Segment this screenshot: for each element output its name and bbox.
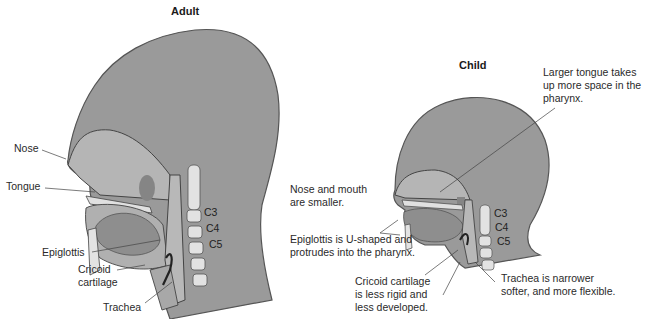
- adult-cricoid-label-line2: cartilage: [78, 276, 118, 289]
- child-head: [394, 98, 549, 270]
- adult-title: Adult: [171, 5, 199, 17]
- adult-cricoid-label-line1: Cricoid: [78, 263, 111, 276]
- child-vertebra-c4: C4: [495, 221, 508, 233]
- child-tongue-label-line3: pharynx.: [543, 92, 583, 105]
- child-epiglottis-label-line2: protrudes into the pharynx.: [290, 246, 415, 259]
- child-title: Child: [459, 59, 487, 71]
- adult-vertebra-c3: C3: [204, 206, 217, 218]
- child-cricoid-label-line2: is less rigid and: [355, 288, 427, 301]
- child-trachea-label-line2: softer, and more flexible.: [501, 285, 615, 298]
- adult-vertebra-c5: C5: [209, 238, 222, 250]
- child-tongue-label-line1: Larger tongue takes: [543, 66, 636, 79]
- adult-trachea-label: Trachea: [103, 301, 141, 314]
- child-trachea-label-line1: Trachea is narrower: [501, 272, 594, 285]
- child-nose-label-line2: are smaller.: [290, 196, 344, 209]
- child-nose-label-line1: Nose and mouth: [290, 183, 367, 196]
- adult-nose-label: Nose: [14, 142, 39, 155]
- child-vertebra-c3: C3: [494, 207, 507, 219]
- child-cricoid-label-line3: less developed.: [355, 301, 428, 314]
- child-epiglottis-label-line1: Epiglottis is U-shaped and: [290, 233, 412, 246]
- adult-vertebra-c4: C4: [206, 222, 219, 234]
- child-vertebra-c5: C5: [497, 235, 510, 247]
- adult-tongue-label: Tongue: [6, 180, 40, 193]
- child-cricoid-label-line1: Cricoid cartilage: [355, 275, 430, 288]
- adult-epiglottis-label: Epiglottis: [42, 246, 85, 259]
- child-tongue-label-line2: up more space in the: [543, 79, 641, 92]
